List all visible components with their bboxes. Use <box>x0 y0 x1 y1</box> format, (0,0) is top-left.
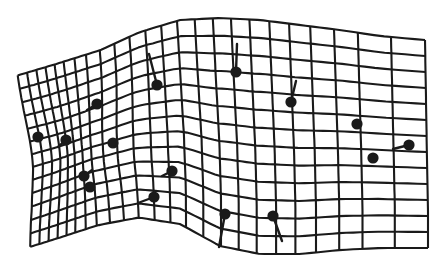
landmark-point-11 <box>403 139 414 150</box>
landmark-point-16 <box>267 210 278 221</box>
deformation-grid-canvas <box>0 0 442 271</box>
landmark-point-9 <box>285 96 296 107</box>
landmark-point-15 <box>219 208 230 219</box>
landmark-point-13 <box>166 165 177 176</box>
landmark-point-6 <box>84 181 95 192</box>
landmark-point-5 <box>78 170 89 181</box>
landmark-point-14 <box>148 191 159 202</box>
landmark-point-4 <box>107 137 118 148</box>
landmark-point-7 <box>151 79 162 90</box>
landmark-point-8 <box>230 66 241 77</box>
landmark-point-1 <box>32 131 43 142</box>
landmark-point-3 <box>91 98 102 109</box>
landmark-point-10 <box>351 118 362 129</box>
landmark-point-12 <box>367 152 378 163</box>
landmark-point-2 <box>60 134 71 145</box>
deformation-grid-figure <box>0 0 442 271</box>
